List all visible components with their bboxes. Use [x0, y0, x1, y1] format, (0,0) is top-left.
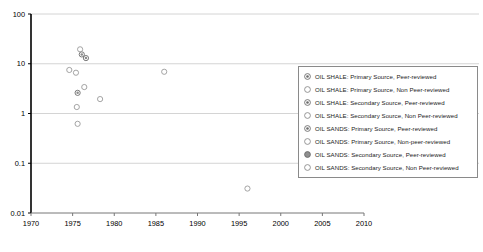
scatter-chart: 197019751980198519901995200020052010 0.0…	[0, 0, 483, 252]
svg-text:100: 100	[13, 10, 25, 19]
legend-marker-icon	[303, 150, 312, 159]
legend-item-label: OIL SHALE: Primary Source, Peer-reviewed	[315, 72, 436, 81]
legend-marker-icon	[303, 72, 312, 81]
svg-text:1985: 1985	[148, 219, 164, 228]
legend-marker-icon	[303, 137, 312, 146]
svg-text:0.1: 0.1	[15, 159, 25, 168]
legend-marker-icon	[303, 98, 312, 107]
legend-item[interactable]: OIL SHALE: Secondary Source, Non Peer-re…	[303, 109, 473, 122]
svg-text:1980: 1980	[106, 219, 122, 228]
svg-text:2010: 2010	[356, 219, 372, 228]
x-tick-labels: 197019751980198519901995200020052010	[23, 219, 372, 228]
legend-item[interactable]: OIL SHALE: Primary Source, Peer-reviewed	[303, 70, 473, 83]
legend-item-label: OIL SANDS: Secondary Source, Non Peer-re…	[315, 163, 459, 172]
svg-text:2000: 2000	[273, 219, 289, 228]
legend-item[interactable]: OIL SANDS: Secondary Source, Peer-review…	[303, 148, 473, 161]
legend-item[interactable]: OIL SANDS: Primary Source, Non-peer-revi…	[303, 135, 473, 148]
legend-item-label: OIL SANDS: Secondary Source, Peer-review…	[315, 150, 446, 159]
legend-item-label: OIL SHALE: Secondary Source, Non Peer-re…	[315, 111, 458, 120]
svg-text:1: 1	[21, 109, 25, 118]
legend-marker-icon	[303, 111, 312, 120]
legend-item-label: OIL SHALE: Primary Source, Non Peer-revi…	[315, 85, 449, 94]
legend-marker-icon	[303, 124, 312, 133]
legend-marker-icon	[303, 85, 312, 94]
legend-item[interactable]: OIL SHALE: Primary Source, Non Peer-revi…	[303, 83, 473, 96]
chart-legend: OIL SHALE: Primary Source, Peer-reviewed…	[298, 66, 478, 178]
svg-text:1975: 1975	[64, 219, 80, 228]
legend-item[interactable]: OIL SANDS: Secondary Source, Non Peer-re…	[303, 161, 473, 174]
svg-text:1995: 1995	[231, 219, 247, 228]
svg-text:10: 10	[17, 59, 25, 68]
legend-marker-icon	[303, 163, 312, 172]
legend-item-label: OIL SANDS: Primary Source, Non-peer-revi…	[315, 137, 450, 146]
legend-item[interactable]: OIL SHALE: Secondary Source, Peer-review…	[303, 96, 473, 109]
svg-text:0.01: 0.01	[11, 209, 25, 218]
legend-item[interactable]: OIL SANDS: Primary Source, Peer-reviewed	[303, 122, 473, 135]
svg-text:1970: 1970	[23, 219, 39, 228]
legend-item-label: OIL SHALE: Secondary Source, Peer-review…	[315, 98, 445, 107]
y-tick-labels: 0.010.1110100	[11, 10, 25, 218]
legend-item-label: OIL SANDS: Primary Source, Peer-reviewed	[315, 124, 437, 133]
svg-text:2005: 2005	[314, 219, 330, 228]
svg-text:1990: 1990	[189, 219, 205, 228]
